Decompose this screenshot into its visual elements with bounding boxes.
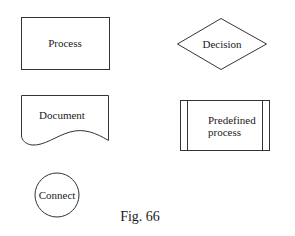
process-label: Process <box>48 37 82 49</box>
process-symbol: Process <box>22 18 110 70</box>
document-symbol: Document <box>22 96 109 146</box>
predefined-label-line2: process <box>208 126 241 138</box>
connector-symbol: Connect <box>35 173 79 217</box>
figure-caption: Fig. 66 <box>120 209 160 224</box>
connect-label: Connect <box>39 189 76 201</box>
flowchart-symbols-diagram: Process Decision Document Predefined pro… <box>0 0 295 236</box>
decision-label: Decision <box>202 38 242 50</box>
predefined-label-line1: Predefined <box>208 114 256 126</box>
document-label: Document <box>39 109 85 121</box>
predefined-process-symbol: Predefined process <box>181 101 270 151</box>
decision-symbol: Decision <box>178 19 267 70</box>
